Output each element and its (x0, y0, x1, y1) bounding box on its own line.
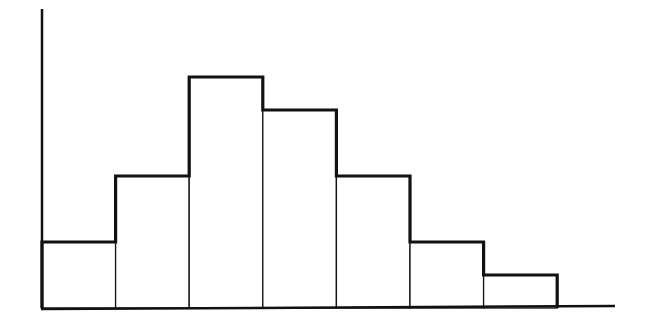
histogram-bar (189, 77, 263, 308)
histogram-bar (484, 275, 558, 308)
histogram-chart (0, 0, 646, 326)
histogram-bar (263, 110, 337, 308)
histogram-bar (410, 242, 484, 308)
histogram-bar (116, 176, 190, 308)
histogram-bar (336, 176, 410, 308)
histogram-bars (42, 77, 557, 308)
histogram-bar (42, 242, 116, 308)
